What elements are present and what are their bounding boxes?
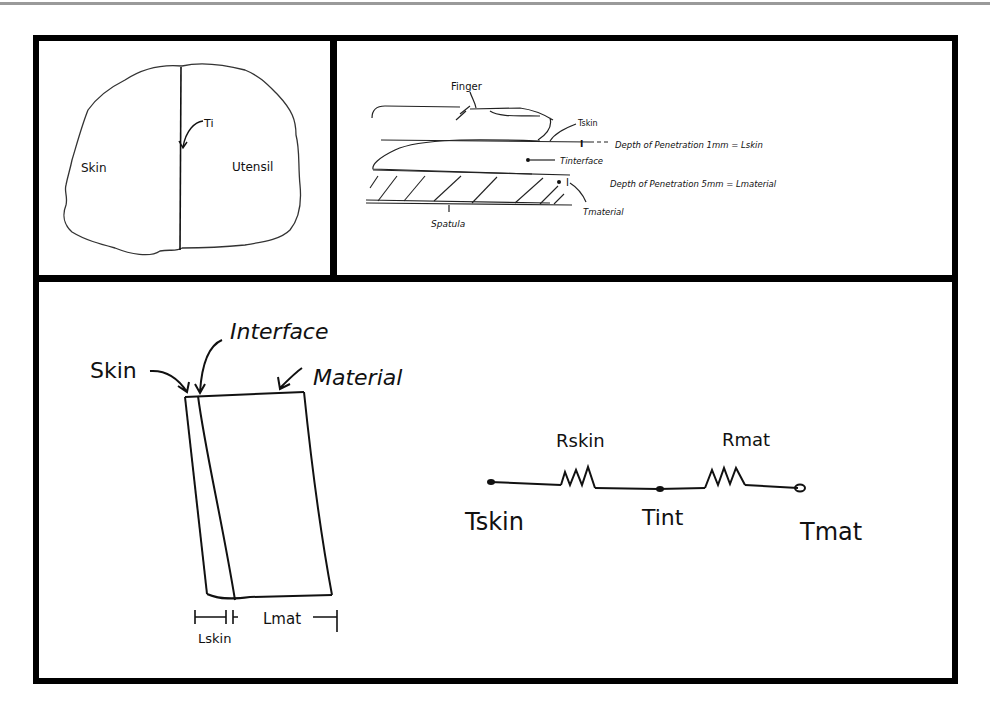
wire-tint-rmat <box>658 488 705 489</box>
resistor-rskin <box>561 467 595 488</box>
node-tint <box>656 486 664 492</box>
t-mat-label: Tmat <box>799 518 862 546</box>
wire-rskin-tint <box>595 488 658 489</box>
t-int-label: Tint <box>641 505 684 530</box>
wire-rmat-tmat <box>745 485 798 488</box>
r-skin-label: Rskin <box>556 430 605 451</box>
t-skin-label: Tskin <box>464 508 524 536</box>
node-tskin <box>487 479 495 485</box>
r-mat-label: Rmat <box>722 429 770 450</box>
wire-tskin-rskin <box>490 482 561 485</box>
panel-resistance-circuit: Rskin Rmat Tskin Tint Tmat <box>0 0 990 714</box>
resistor-rmat <box>705 468 745 488</box>
